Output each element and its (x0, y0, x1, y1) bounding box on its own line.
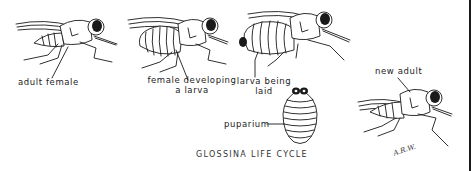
glossina-life-cycle-diagram: adult female female developing a larva l… (0, 0, 475, 171)
label-puparium: puparium (224, 119, 270, 129)
label-female-developing-line2: a larva (140, 85, 244, 95)
label-larva-being-laid: larva being laid (232, 76, 296, 96)
right-border-rule (469, 0, 471, 171)
larva-laid-leader-line (255, 52, 258, 77)
label-larva-being-laid-line1: larva being (232, 76, 296, 86)
label-adult-female: adult female (18, 77, 79, 87)
adult-female-fly-icon (16, 19, 117, 64)
label-female-developing-larva: female developing a larva (140, 75, 244, 95)
figure-title: GLOSSINA LIFE CYCLE (196, 150, 308, 159)
label-female-developing-line1: female developing (140, 75, 244, 85)
new-adult-leader-line (398, 78, 410, 92)
label-new-adult: new adult (375, 66, 422, 76)
label-larva-being-laid-line2: laid (232, 86, 296, 96)
new-adult-fly-icon (358, 89, 452, 146)
female-developing-larva-fly-icon (128, 17, 228, 72)
